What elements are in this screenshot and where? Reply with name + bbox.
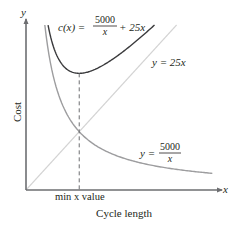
- cost-curve-label: c(x) = 5000 x + 25x: [58, 14, 145, 37]
- reciprocal-curve-label-num: 5000: [160, 141, 180, 152]
- cost-chart: y x Cost Cycle length min x value c(x) =…: [0, 0, 233, 226]
- min-x-label: min x value: [55, 191, 105, 202]
- min-x-label-text: min x value: [55, 191, 105, 202]
- linear-curve-label: y = 25x: [151, 56, 186, 68]
- cost-curve-label-rhs: + 25x: [119, 21, 145, 33]
- y-axis-symbol: y: [20, 6, 26, 18]
- reciprocal-curve-label: y = 5000 x: [139, 141, 181, 164]
- reciprocal-curve-label-lhs: y =: [139, 147, 155, 159]
- cost-curve-label-num: 5000: [95, 14, 115, 25]
- y-axis-title: Cost: [11, 102, 23, 122]
- x-axis-title: Cycle length: [96, 207, 152, 219]
- cost-curve-label-den: x: [102, 26, 108, 37]
- cost-curve-label-lhs: c(x) =: [58, 21, 85, 34]
- series-layer: [26, 25, 212, 190]
- reciprocal-curve-label-den: x: [167, 153, 173, 164]
- x-axis-symbol: x: [222, 183, 228, 195]
